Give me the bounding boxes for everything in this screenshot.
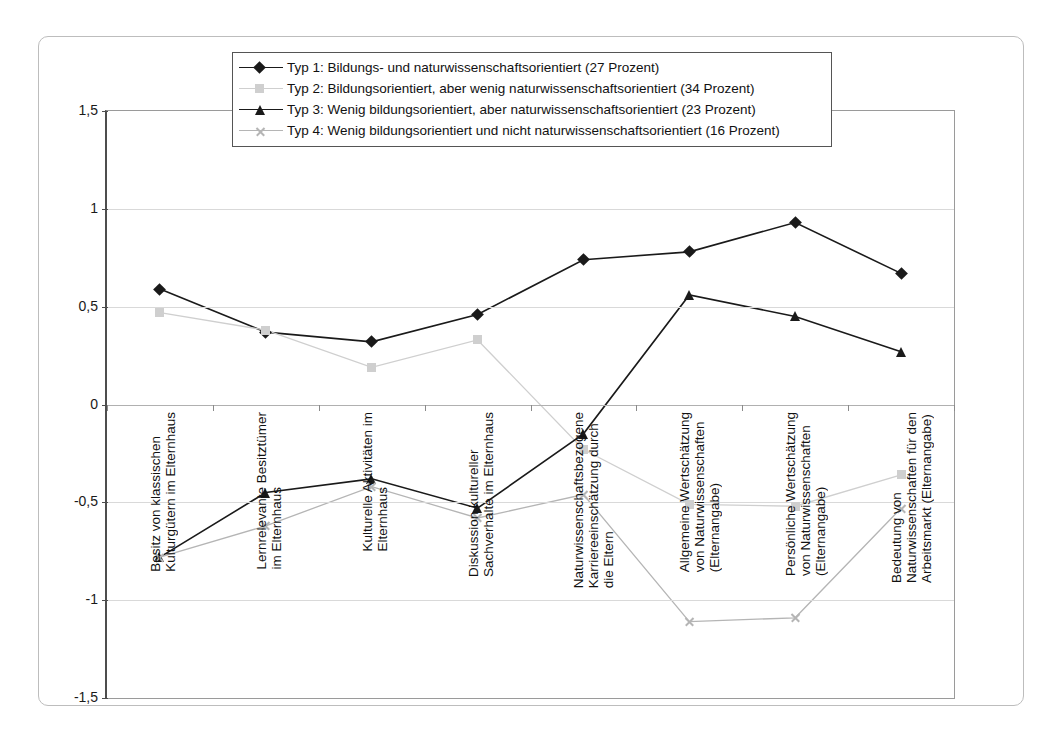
gridline	[107, 307, 954, 308]
data-point-marker	[261, 326, 270, 335]
plot-area	[105, 110, 955, 699]
y-axis-tick-label: 0,5	[79, 298, 98, 314]
legend-marker-triangle-icon	[255, 105, 265, 115]
legend-label: Typ 1: Bildungs- und naturwissenschaftso…	[287, 60, 659, 75]
data-point-marker	[155, 308, 164, 317]
data-point-marker	[896, 347, 906, 357]
data-point-marker	[896, 503, 907, 514]
legend-label: Typ 2: Bildungsorientiert, aber wenig na…	[287, 81, 754, 96]
y-axis-tick-label: 1	[90, 200, 98, 216]
chart-legend: Typ 1: Bildungs- und naturwissenschaftso…	[232, 52, 832, 147]
data-point-marker	[260, 520, 271, 531]
x-axis-tick-mark	[213, 405, 214, 411]
legend-label: Typ 4: Wenig bildungsorientiert und nich…	[287, 123, 780, 138]
y-axis-tick-mark	[102, 698, 108, 699]
y-axis-tick-label: -1	[86, 591, 98, 607]
y-axis-tick-label: -1,5	[74, 689, 98, 705]
y-axis-tick-mark	[102, 502, 108, 503]
y-axis-tick-label: -0,5	[74, 493, 98, 509]
legend-item: Typ 1: Bildungs- und naturwissenschaftso…	[239, 57, 825, 78]
data-point-marker	[684, 616, 695, 627]
data-point-marker	[366, 481, 377, 492]
chart-figure: 1,510,50-0,5-1-1,5 Besitz von klassische…	[0, 0, 1062, 740]
x-axis-tick-mark	[848, 405, 849, 411]
series-line	[160, 223, 901, 342]
data-point-marker	[578, 489, 589, 500]
y-axis-tick-mark	[102, 111, 108, 112]
data-point-marker	[790, 612, 801, 623]
legend-item: Typ 3: Wenig bildungsorientiert, aber na…	[239, 99, 825, 120]
x-axis-tick-mark	[319, 405, 320, 411]
data-point-marker	[791, 502, 800, 511]
legend-item: Typ 4: Wenig bildungsorientiert und nich…	[239, 120, 825, 141]
data-point-marker	[260, 488, 270, 498]
legend-key	[239, 61, 283, 75]
series-line	[160, 295, 901, 557]
data-point-marker	[578, 429, 588, 439]
data-point-marker	[367, 363, 376, 372]
data-point-marker	[154, 552, 165, 563]
data-point-marker	[897, 470, 906, 479]
y-axis-tick-mark	[102, 307, 108, 308]
y-axis-tick-labels: 1,510,50-0,5-1-1,5	[40, 110, 98, 699]
gridline	[107, 600, 954, 601]
data-point-marker	[684, 290, 694, 300]
x-axis-tick-mark	[531, 405, 532, 411]
y-axis-tick-mark	[102, 600, 108, 601]
x-axis-tick-mark	[425, 405, 426, 411]
data-point-marker	[579, 445, 588, 454]
data-point-marker	[790, 311, 800, 321]
y-axis-tick-label: 0	[90, 396, 98, 412]
legend-item: Typ 2: Bildungsorientiert, aber wenig na…	[239, 78, 825, 99]
gridline	[107, 502, 954, 503]
legend-marker-diamond-icon	[253, 61, 266, 74]
x-axis-tick-mark	[954, 405, 955, 411]
y-axis-tick-label: 1,5	[79, 102, 98, 118]
x-axis-tick-mark	[742, 405, 743, 411]
data-point-marker	[473, 335, 482, 344]
gridline	[107, 209, 954, 210]
legend-key	[239, 124, 283, 138]
legend-label: Typ 3: Wenig bildungsorientiert, aber na…	[287, 102, 756, 117]
legend-marker-square-icon	[255, 84, 264, 93]
x-axis-tick-mark	[636, 405, 637, 411]
data-point-marker	[685, 500, 694, 509]
legend-key	[239, 82, 283, 96]
data-point-marker	[472, 512, 483, 523]
x-axis-tick-mark	[107, 405, 108, 411]
legend-key	[239, 103, 283, 117]
y-axis-tick-mark	[102, 209, 108, 210]
